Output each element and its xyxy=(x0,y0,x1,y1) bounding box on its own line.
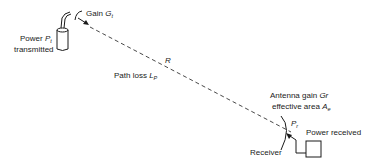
receiver-caption: Receiver xyxy=(250,148,282,157)
gain-subscript: t xyxy=(111,13,113,19)
receive-antenna-gain-label: Antenna gain Gr xyxy=(270,91,328,100)
power-received-label: Power received xyxy=(306,128,361,137)
effective-area-subscript: e xyxy=(327,106,330,112)
gain-text: Gain xyxy=(86,9,103,18)
antenna-gain-text: Antenna gain xyxy=(270,91,317,100)
path-loss-text: Path loss xyxy=(114,71,147,80)
antenna-gain-symbol: Gr xyxy=(319,91,328,100)
receiver-box-icon xyxy=(306,141,321,157)
range-symbol: R xyxy=(165,56,171,65)
effective-area-text: effective area xyxy=(272,102,320,111)
receive-antenna-arc-icon xyxy=(281,116,287,150)
path-loss-label: Path loss LP xyxy=(114,71,157,83)
effective-area-label: effective area Ae xyxy=(272,102,331,114)
transmitted-caption: transmitted xyxy=(14,45,54,54)
diagram-canvas xyxy=(0,0,374,164)
range-label: R xyxy=(165,56,171,65)
path-loss-subscript: P xyxy=(154,75,158,81)
power-subscript: t xyxy=(50,38,52,44)
receive-feed-icon xyxy=(286,133,306,153)
transmit-gain-label: Gain Gt xyxy=(86,9,113,21)
power-text: Power xyxy=(20,34,43,43)
received-power-symbol-label: Pr xyxy=(291,119,298,131)
transmit-power-label: Power Pt xyxy=(20,34,52,46)
transmitter-icon xyxy=(57,28,68,51)
transmit-antenna-icon xyxy=(61,11,82,28)
received-power-subscript: r xyxy=(296,123,298,129)
